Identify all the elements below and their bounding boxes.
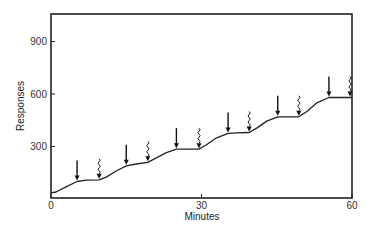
y-axis-label: Responses [15,81,26,131]
y-tick-label: 300 [30,141,47,152]
wavy-arrow-shaft [147,141,149,156]
plot-frame [51,14,352,198]
series-line [51,98,352,193]
wavy-arrow-marker [247,112,252,132]
straight-arrow-marker [124,145,129,165]
wavy-arrow-marker [145,141,150,161]
y-tick-label: 600 [30,89,47,100]
y-tick-label: 900 [30,36,47,47]
arrow-head [97,174,102,179]
arrow-head [145,156,150,161]
wavy-arrow-shaft [349,77,351,92]
arrow-head [275,111,280,116]
straight-arrow-marker [326,77,331,97]
wavy-arrow-marker [97,159,102,179]
arrow-head [174,143,179,148]
cumulative-record-chart: 30060090003060 Responses Minutes [0,0,374,229]
x-tick-label: 60 [346,200,358,211]
x-tick-label: 30 [196,200,208,211]
straight-arrow-marker [174,128,179,148]
straight-arrow-marker [226,112,231,132]
x-axis-label: Minutes [184,211,219,222]
wavy-arrow-shaft [198,128,200,143]
wavy-arrow-marker [196,128,201,148]
straight-arrow-marker [275,96,280,116]
arrow-head [75,176,80,181]
wavy-arrow-marker [296,96,301,116]
wavy-arrow-shaft [298,96,300,111]
straight-arrow-marker [75,161,80,181]
wavy-arrow-shaft [98,159,100,174]
x-tick-label: 0 [48,200,54,211]
arrow-head [124,160,129,165]
wavy-arrow-shaft [248,112,250,127]
arrow-head [226,127,231,132]
arrow-head [326,92,331,97]
